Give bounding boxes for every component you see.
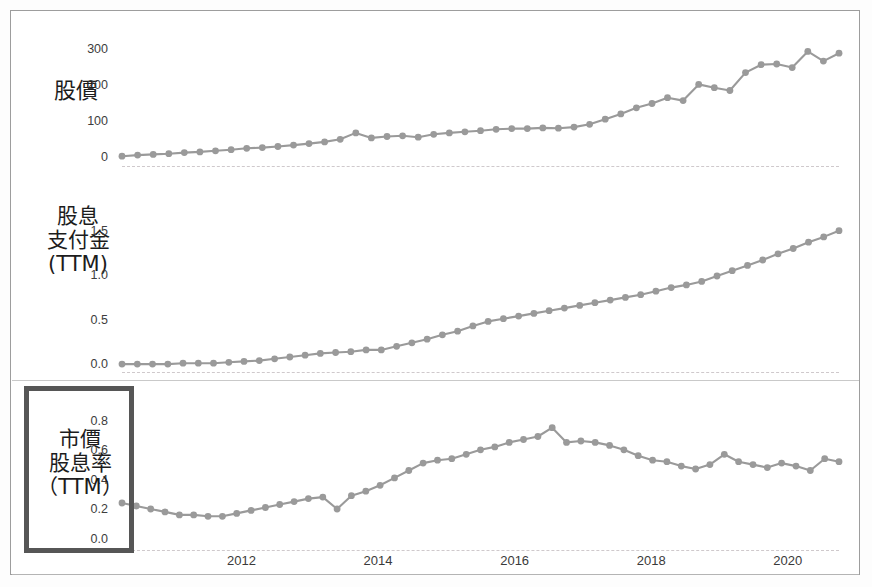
data-point-marker <box>606 442 613 449</box>
x-tick-2016: 2016 <box>485 553 545 568</box>
data-point-marker <box>592 439 599 446</box>
data-point-marker <box>820 58 827 65</box>
data-point-marker <box>491 444 498 451</box>
chart-figure: 股價 股息 支付金 (TTM) 市價 股息率 （TTM） 01002003000… <box>0 0 872 587</box>
x-tick-2012: 2012 <box>212 553 272 568</box>
data-point-marker <box>446 130 453 137</box>
data-point-marker <box>409 339 416 346</box>
data-point-marker <box>561 305 568 312</box>
data-point-marker <box>735 458 742 465</box>
data-point-marker <box>555 125 562 132</box>
data-point-marker <box>789 64 796 71</box>
data-point-marker <box>275 143 282 150</box>
data-point-marker <box>439 331 446 338</box>
data-point-marker <box>463 451 470 458</box>
data-point-marker <box>649 100 656 107</box>
data-point-marker <box>742 69 749 76</box>
data-point-marker <box>415 134 422 141</box>
data-point-marker <box>820 234 827 241</box>
data-point-marker <box>692 466 699 473</box>
data-point-marker <box>195 360 202 367</box>
data-point-marker <box>607 297 614 304</box>
data-point-marker <box>493 126 500 133</box>
data-point-marker <box>134 361 141 368</box>
data-point-marker <box>477 127 484 134</box>
data-point-marker <box>664 458 671 465</box>
data-point-marker <box>352 130 359 137</box>
data-point-marker <box>368 135 375 142</box>
data-point-marker <box>635 452 642 459</box>
data-point-marker <box>807 467 814 474</box>
data-point-marker <box>680 97 687 104</box>
data-point-marker <box>243 145 250 152</box>
data-point-marker <box>164 361 171 368</box>
data-point-marker <box>622 294 629 301</box>
data-point-marker <box>653 288 660 295</box>
data-point-marker <box>149 361 156 368</box>
data-point-marker <box>225 359 232 366</box>
data-point-marker <box>698 278 705 285</box>
data-point-marker <box>271 355 278 362</box>
data-point-marker <box>836 227 843 234</box>
data-point-marker <box>711 84 718 91</box>
data-point-marker <box>147 506 154 513</box>
data-point-marker <box>637 291 644 298</box>
data-point-marker <box>836 458 843 465</box>
data-point-marker <box>337 136 344 143</box>
y-tick-price-3: 300 <box>62 42 108 56</box>
data-point-marker <box>649 457 656 464</box>
data-point-marker <box>305 495 312 502</box>
data-point-marker <box>162 509 169 516</box>
data-point-marker <box>520 436 527 443</box>
data-point-marker <box>578 438 585 445</box>
data-point-marker <box>119 153 126 160</box>
data-point-marker <box>420 460 427 467</box>
data-point-marker <box>119 361 126 368</box>
data-point-marker <box>506 439 513 446</box>
data-point-marker <box>176 512 183 519</box>
data-point-marker <box>759 257 766 264</box>
data-point-marker <box>729 267 736 274</box>
data-point-marker <box>286 354 293 361</box>
data-point-marker <box>348 492 355 499</box>
data-point-marker <box>378 347 385 354</box>
data-point-marker <box>531 310 538 317</box>
series-price <box>119 48 843 160</box>
data-point-marker <box>377 482 384 489</box>
data-point-marker <box>434 457 441 464</box>
series-dividend <box>119 227 843 367</box>
data-point-marker <box>405 467 412 474</box>
data-point-marker <box>664 94 671 101</box>
data-point-marker <box>393 343 400 350</box>
data-point-marker <box>793 463 800 470</box>
data-point-marker <box>563 439 570 446</box>
data-point-marker <box>773 61 780 68</box>
data-point-marker <box>678 463 685 470</box>
panel-label-dividend-yield: 市價 股息率 （TTM） <box>30 428 130 500</box>
data-point-marker <box>546 307 553 314</box>
series-yield <box>119 424 843 519</box>
series-line <box>122 51 839 156</box>
data-point-marker <box>424 336 431 343</box>
data-point-marker <box>602 116 609 123</box>
data-point-marker <box>524 125 531 132</box>
data-point-marker <box>549 424 556 431</box>
data-point-marker <box>134 152 141 159</box>
data-point-marker <box>836 50 843 57</box>
data-point-marker <box>210 360 217 367</box>
data-point-marker <box>592 299 599 306</box>
data-point-marker <box>233 510 240 517</box>
data-point-marker <box>319 494 326 501</box>
data-point-marker <box>805 239 812 246</box>
y-tick-dividend-1: 0.5 <box>62 313 108 327</box>
data-point-marker <box>821 455 828 462</box>
data-point-marker <box>571 124 578 131</box>
data-point-marker <box>515 313 522 320</box>
data-point-marker <box>470 323 477 330</box>
data-point-marker <box>764 464 771 471</box>
data-point-marker <box>454 328 461 335</box>
data-point-marker <box>241 358 248 365</box>
data-point-marker <box>306 140 313 147</box>
data-point-marker <box>668 284 675 291</box>
data-point-marker <box>181 149 188 156</box>
